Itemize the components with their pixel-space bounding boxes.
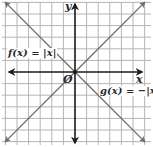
y-axis-label: y — [65, 1, 71, 12]
f-of-x-label: f(x) = |x| — [7, 48, 57, 58]
absolute-value-graph: f(x) = |x| g(x) = −|x| x y O — [0, 0, 153, 147]
coordinate-plane — [0, 0, 153, 147]
origin-point — [73, 70, 77, 74]
g-of-x-label: g(x) = −|x| — [99, 86, 153, 96]
x-axis-label: x — [136, 74, 143, 85]
origin-label: O — [63, 74, 73, 85]
